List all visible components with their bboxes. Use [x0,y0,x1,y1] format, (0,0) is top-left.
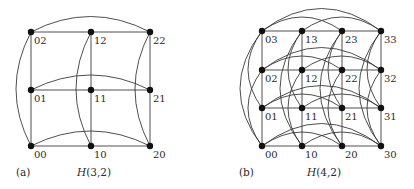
node-label: 13 [305,34,318,45]
panel-b-nodes [259,28,384,149]
node-label: 22 [153,35,166,46]
node-label: 03 [265,34,278,45]
hamming-graph-figure: 00 10 20 01 11 21 02 12 22 (a) H(3,2) [0,0,414,189]
node-label: 21 [153,93,166,104]
node-label: 21 [345,111,358,122]
node-label: 20 [345,149,358,160]
node-label: 33 [384,34,397,45]
panel-b: 00 10 20 30 01 11 21 31 02 12 22 32 03 1… [239,9,397,179]
panel-a: 00 10 20 01 11 21 02 12 22 (a) H(3,2) [16,17,166,179]
panel-a-letter: (a) [16,166,30,178]
node-label: 01 [265,111,278,122]
node-label: 02 [34,35,47,46]
panel-b-row-arcs [262,9,381,147]
node-label: 02 [265,73,278,84]
node-label: 32 [384,73,397,84]
node-label: 30 [384,149,397,160]
panel-a-title: H(3,2) [76,166,111,178]
node-label: 12 [94,35,107,46]
node-label: 23 [345,34,358,45]
node-label: 31 [384,111,397,122]
panel-b-title: H(4,2) [306,166,341,178]
node-label: 12 [305,73,318,84]
panel-b-letter: (b) [239,166,254,178]
node-label: 01 [34,93,47,104]
node-label: 00 [265,149,278,160]
node-label: 10 [305,149,318,160]
node-label: 11 [305,111,318,122]
node-label: 11 [94,93,107,104]
panel-a-node-labels: 00 10 20 01 11 21 02 12 22 [34,35,166,160]
node-label: 10 [94,149,107,160]
node-label: 22 [345,73,358,84]
node-label: 20 [153,149,166,160]
node-label: 00 [34,149,47,160]
